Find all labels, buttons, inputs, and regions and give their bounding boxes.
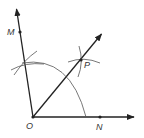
angle-bisector-diagram bbox=[0, 0, 144, 138]
label-n: N bbox=[96, 123, 103, 132]
ray-op-bisector bbox=[33, 34, 102, 117]
label-p: P bbox=[84, 61, 90, 70]
point-p bbox=[79, 58, 82, 61]
label-m: M bbox=[7, 28, 15, 37]
ray-om bbox=[17, 9, 34, 117]
point-o bbox=[31, 115, 34, 118]
point-m bbox=[18, 30, 21, 33]
label-o: O bbox=[26, 122, 33, 131]
point-n bbox=[98, 115, 101, 118]
arc-mark-om-1 bbox=[11, 64, 44, 70]
